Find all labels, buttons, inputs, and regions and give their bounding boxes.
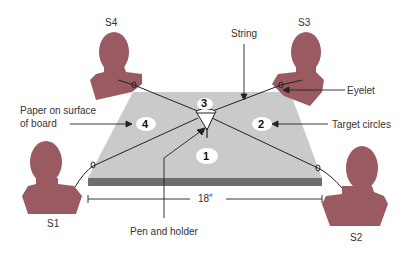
callout-string: String — [231, 28, 257, 40]
label-s1: S1 — [47, 218, 59, 230]
dimension-label: 18″ — [198, 193, 213, 205]
label-s4: S4 — [105, 17, 117, 29]
target-2: 2 — [258, 118, 264, 130]
callout-pen-holder: Pen and holder — [130, 226, 198, 238]
callout-eyelet: Eyelet — [347, 85, 375, 97]
person-s4-icon — [90, 32, 142, 100]
board-edge — [88, 178, 322, 186]
target-1: 1 — [203, 150, 209, 162]
label-s3: S3 — [298, 17, 310, 29]
callout-paper-line1: Paper on surface — [20, 105, 96, 117]
callout-paper-line2: of board — [20, 118, 57, 130]
target-4: 4 — [142, 118, 148, 130]
target-3: 3 — [201, 97, 207, 109]
person-s1-icon — [22, 141, 82, 214]
person-s2-icon — [322, 146, 388, 226]
callout-target-circles: Target circles — [332, 119, 391, 131]
label-s2: S2 — [350, 232, 362, 244]
